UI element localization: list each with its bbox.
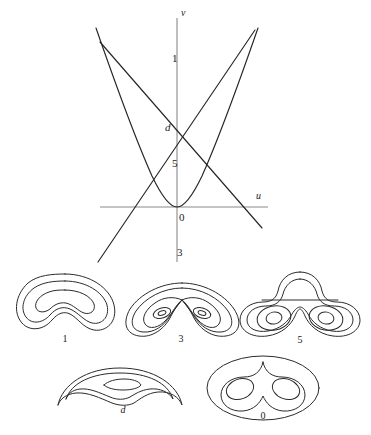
- phase-plane: v u 1 d 5 0 3: [96, 7, 268, 262]
- contour-3-right-eye-core: [198, 310, 207, 317]
- contour-5-outer: [240, 272, 360, 336]
- contour-0-double-lobe: [221, 362, 305, 411]
- region-label-0: 0: [179, 211, 185, 223]
- panel-label-3: 3: [179, 333, 184, 344]
- contour-5-right-eye-inner: [317, 310, 335, 325]
- region-label-d: d: [165, 121, 171, 133]
- contour-0-left-eye: [223, 375, 256, 403]
- contour-3-right-eye-outer: [182, 298, 220, 328]
- contour-5-left-eye-inner: [265, 310, 283, 325]
- level-curve-panel-1: 1: [16, 274, 114, 344]
- level-curve-panel-0: 0: [207, 356, 319, 421]
- level-curve-panel-3: 3: [126, 283, 239, 344]
- contour-3-outer: [126, 283, 239, 336]
- contour-3-left-eye-outer: [144, 298, 182, 328]
- line-separatrix-falling: [100, 42, 262, 228]
- level-curve-panel-d: d: [58, 368, 182, 415]
- contour-1-outer: [16, 274, 114, 330]
- u-axis-label: u: [256, 190, 261, 201]
- contour-3-left-eye-core: [158, 310, 167, 317]
- contour-5-right-eye-outer: [307, 303, 345, 334]
- panel-label-0: 0: [261, 410, 266, 421]
- bifurcation-figure: v u 1 d 5 0 3 1 3 5: [0, 0, 371, 435]
- contour-0-right-eye: [269, 375, 302, 403]
- contour-1-middle: [23, 281, 108, 323]
- contour-5-second: [247, 279, 353, 331]
- panel-label-5: 5: [298, 334, 303, 345]
- contour-5-left-eye-outer: [255, 303, 293, 334]
- region-label-1: 1: [172, 52, 178, 64]
- level-curve-panel-5: 5: [240, 272, 360, 345]
- v-axis-label: v: [181, 7, 186, 18]
- contour-1-inner: [36, 290, 95, 314]
- region-label-3: 3: [177, 246, 183, 258]
- region-label-5: 5: [172, 157, 178, 169]
- panel-label-1: 1: [63, 333, 68, 344]
- contour-d-inner-sliver: [104, 379, 141, 390]
